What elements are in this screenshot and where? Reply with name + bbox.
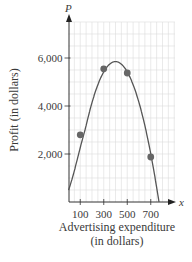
- y-tick-label: 2,000: [38, 148, 63, 160]
- x-axis-variable: x: [178, 196, 184, 208]
- ticks: 1003005007002,0004,0006,000: [38, 52, 160, 220]
- y-axis-variable: P: [64, 2, 72, 14]
- x-axis-title-line1: Advertising expenditure: [59, 220, 175, 234]
- y-tick-label: 4,000: [38, 100, 63, 112]
- x-axis-title-line2: (in dollars): [91, 234, 144, 248]
- data-point: [77, 131, 84, 138]
- x-tick-label: 700: [143, 208, 160, 220]
- axes: [66, 14, 176, 205]
- data-point: [100, 65, 107, 72]
- data-point: [147, 154, 154, 161]
- grid: [69, 22, 176, 202]
- y-tick-label: 6,000: [38, 52, 63, 64]
- x-axis-arrow-icon: [168, 199, 176, 205]
- data-point: [124, 70, 131, 77]
- y-axis-arrow-icon: [66, 14, 72, 22]
- quadratic-curve: [69, 62, 160, 202]
- y-axis-title: Profit (in dollars): [7, 68, 21, 151]
- x-tick-label: 500: [119, 208, 136, 220]
- profit-chart: 1003005007002,0004,0006,000 P x Profit (…: [0, 0, 192, 262]
- x-tick-label: 300: [96, 208, 113, 220]
- x-tick-label: 100: [72, 208, 89, 220]
